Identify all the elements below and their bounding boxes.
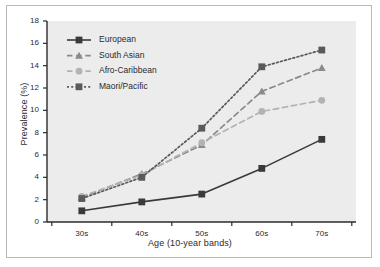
- data-point-marker: [318, 47, 325, 54]
- y-tick-label: 2: [17, 195, 39, 204]
- legend-item-label: Afro-Caribbean: [99, 65, 157, 75]
- x-tick-label: 30s: [62, 229, 102, 238]
- data-point-marker: [198, 139, 205, 146]
- data-point-marker: [76, 68, 83, 75]
- y-tick-label: 12: [17, 83, 39, 92]
- data-point-marker: [78, 207, 85, 214]
- data-point-marker: [138, 174, 145, 181]
- data-point-marker: [78, 195, 85, 202]
- x-tick-label: 70s: [302, 229, 342, 238]
- y-tick-label: 0: [17, 217, 39, 226]
- legend-item-label: Maori/Pacific: [99, 81, 148, 91]
- data-point-marker: [76, 83, 83, 90]
- y-tick-label: 4: [17, 172, 39, 181]
- data-point-marker: [318, 97, 325, 104]
- data-point-marker: [258, 63, 265, 70]
- data-point-marker: [258, 108, 265, 115]
- y-tick-label: 18: [17, 16, 39, 25]
- data-point-marker: [76, 37, 83, 44]
- x-tick-label: 40s: [122, 229, 162, 238]
- x-tick-label: 60s: [242, 229, 282, 238]
- figure-frame: Prevalence (%) Age (10-year bands) 02468…: [6, 5, 372, 258]
- y-tick-label: 6: [17, 150, 39, 159]
- data-point-marker: [198, 191, 205, 198]
- legend-item-label: European: [99, 34, 136, 44]
- x-tick-label: 50s: [182, 229, 222, 238]
- y-tick-label: 8: [17, 128, 39, 137]
- x-axis-title: Age (10-year bands): [7, 238, 373, 248]
- y-tick-label: 14: [17, 61, 39, 70]
- y-tick-label: 10: [17, 105, 39, 114]
- legend-item-label: South Asian: [99, 50, 144, 60]
- data-point-marker: [198, 125, 205, 132]
- data-point-marker: [258, 165, 265, 172]
- data-point-marker: [138, 199, 145, 206]
- y-tick-label: 16: [17, 38, 39, 47]
- chart-plot-canvas: [7, 6, 373, 259]
- data-point-marker: [318, 136, 325, 143]
